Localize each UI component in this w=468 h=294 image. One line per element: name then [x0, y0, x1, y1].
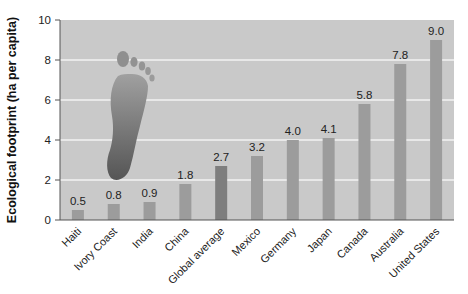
bar [72, 210, 84, 220]
y-tick-label: 10 [38, 14, 51, 26]
y-tick-label: 8 [45, 54, 51, 66]
bar-value-label: 5.8 [356, 89, 372, 101]
bar [287, 140, 299, 220]
bar-value-label: 3.2 [249, 141, 265, 153]
y-tick-label: 2 [45, 174, 51, 186]
x-axis-labels: HaitiIvory CoastIndiaChinaGlobal average… [59, 224, 442, 286]
bar-value-label: 0.9 [142, 187, 158, 199]
y-tick-label: 6 [45, 94, 51, 106]
x-tick-label: India [130, 224, 156, 250]
bar [144, 202, 156, 220]
x-tick-label: Mexico [229, 225, 262, 258]
bar [215, 166, 227, 220]
x-tick-label: Japan [304, 225, 334, 255]
bar-value-label: 0.8 [106, 189, 122, 201]
y-tick-label: 0 [45, 214, 51, 226]
x-tick-label: China [162, 224, 191, 253]
bar-value-label: 7.8 [392, 49, 408, 61]
bar [179, 184, 191, 220]
bar [430, 40, 442, 220]
bar-value-label: 4.1 [321, 123, 337, 135]
x-tick-label: Germany [258, 225, 299, 266]
x-tick-label: Canada [334, 224, 370, 260]
bar [394, 64, 406, 220]
bar-value-label: 2.7 [213, 151, 229, 163]
bar [108, 204, 120, 220]
bar [251, 156, 263, 220]
bar [323, 138, 335, 220]
bar-value-label: 0.5 [70, 195, 86, 207]
bar-value-label: 9.0 [428, 25, 444, 37]
y-axis-ticks: 0246810 [38, 14, 60, 226]
bar [358, 104, 370, 220]
bar-value-label: 1.8 [177, 169, 193, 181]
bar-chart: 0.50.80.91.82.73.24.04.15.87.89.0 024681… [0, 0, 468, 294]
x-tick-label: Haiti [59, 225, 83, 249]
y-tick-label: 4 [45, 134, 52, 146]
bar-value-label: 4.0 [285, 125, 301, 137]
